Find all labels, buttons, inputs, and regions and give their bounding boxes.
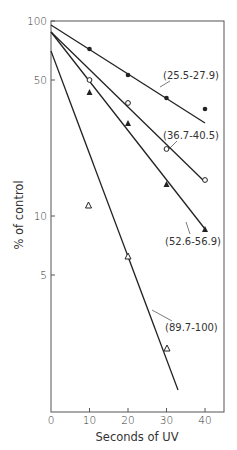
label-arrow: [160, 81, 170, 87]
fit-line-89-100: [51, 51, 178, 390]
series-label-89-100: (89.7-100): [165, 322, 218, 333]
series-label-36-40: (36.7-40.5): [163, 130, 219, 141]
x-axis: [90, 408, 206, 412]
y-tick-label: 100: [27, 15, 47, 27]
y-tick-label: 50: [34, 74, 47, 86]
y-tick-label: 5: [40, 269, 47, 281]
series-label-25-27: (25.5-27.9): [163, 70, 219, 81]
label-arrow: [186, 222, 190, 234]
x-tick-label: 0: [48, 414, 55, 426]
x-tick-label: 30: [160, 414, 173, 426]
series-89-100-markers: [86, 202, 171, 351]
y-axis-title: % of control: [12, 180, 26, 249]
label-arrow: [152, 310, 172, 321]
y-tick-label: 10: [34, 210, 47, 222]
x-tick-label: 20: [121, 414, 134, 426]
fit-line-36-40: [51, 32, 205, 182]
label-arrow: [169, 141, 177, 149]
x-axis-title: Seconds of UV: [96, 430, 179, 444]
x-tick-label: 10: [83, 414, 96, 426]
series-label-52-56: (52.6-56.9): [165, 236, 221, 247]
x-tick-label: 40: [198, 414, 211, 426]
uv-survival-chart: 100 50 10 5 0 10 20 30 40 Seconds of UV …: [0, 0, 237, 450]
